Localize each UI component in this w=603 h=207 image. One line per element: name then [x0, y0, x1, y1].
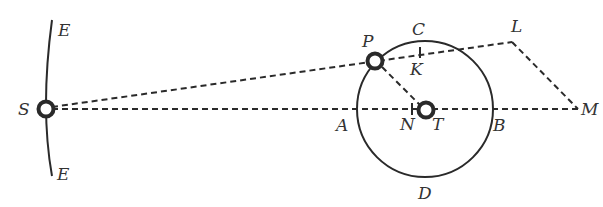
- label-d: D: [417, 183, 432, 203]
- body-p-icon: [368, 54, 383, 69]
- label-n: N: [399, 114, 416, 134]
- body-s-icon: [39, 102, 54, 117]
- label-b: B: [492, 115, 506, 135]
- label-c: C: [412, 19, 425, 39]
- line-l-m: [512, 42, 578, 109]
- label-k: K: [409, 59, 424, 79]
- label-s: S: [18, 99, 30, 119]
- label-p: P: [361, 31, 374, 51]
- line-s-l: [52, 42, 512, 107]
- label-e-bottom: E: [56, 164, 70, 184]
- label-t: T: [432, 114, 445, 134]
- orbit-arc-ee: [46, 20, 52, 176]
- label-e-top: E: [57, 20, 71, 40]
- label-a: A: [334, 115, 348, 135]
- label-m: M: [580, 99, 599, 119]
- label-l: L: [510, 16, 522, 36]
- diagram-canvas: E E S P C K L A N T B M D: [0, 0, 603, 207]
